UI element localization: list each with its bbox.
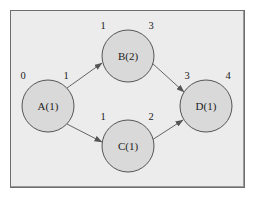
node-b-label: B(2) [118, 50, 139, 63]
node-b: B(2) 1 3 [100, 20, 154, 82]
node-c-label: C(1) [118, 140, 139, 153]
edge-b-d [152, 63, 184, 92]
node-a-end-time: 1 [63, 70, 68, 81]
network-diagram: A(1) 0 1 B(2) 1 3 C(1) 1 2 D(1) 3 4 [0, 0, 255, 200]
node-d-end-time: 4 [225, 70, 231, 81]
edge-a-c [67, 124, 102, 142]
node-d: D(1) 3 4 [180, 70, 232, 132]
node-b-end-time: 3 [148, 20, 153, 31]
edge-a-b [67, 63, 102, 88]
node-a: A(1) 0 1 [20, 70, 74, 132]
node-c-start-time: 1 [100, 111, 105, 122]
node-a-label: A(1) [38, 100, 59, 113]
node-c: C(1) 1 2 [100, 111, 154, 172]
node-c-end-time: 2 [148, 111, 153, 122]
node-d-start-time: 3 [184, 70, 189, 81]
node-d-label: D(1) [196, 100, 217, 113]
node-a-start-time: 0 [20, 70, 25, 81]
node-b-start-time: 1 [100, 20, 105, 31]
edge-c-d [152, 120, 183, 140]
